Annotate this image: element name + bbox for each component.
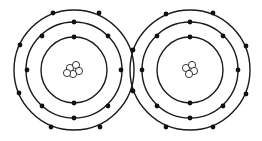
electron-middle (106, 34, 111, 39)
electron-middle (40, 104, 45, 109)
electron-middle (188, 116, 193, 121)
atom-diagram-canvas (0, 0, 262, 141)
electron-middle (236, 68, 241, 73)
electron-outer (244, 44, 249, 49)
nucleus (182, 61, 197, 77)
orbit-shell-3 (130, 10, 250, 130)
electron-outer (51, 11, 56, 16)
electron-outer (97, 11, 102, 16)
electron-middle (221, 104, 226, 109)
electron-outer (164, 12, 169, 17)
electron-middle (155, 104, 160, 109)
electron-shared (131, 48, 136, 53)
orbit-shell-1 (157, 37, 223, 103)
orbit-shell-1 (41, 37, 107, 103)
electron-shared (131, 89, 136, 94)
electron-middle (40, 34, 45, 39)
electron-outer (244, 92, 249, 97)
nucleon (185, 70, 192, 77)
electron-middle (140, 68, 145, 73)
electron-middle (221, 34, 226, 39)
electron-inner (188, 35, 193, 40)
bohr-diagram (0, 0, 262, 141)
electron-outer (18, 43, 23, 48)
electron-outer (164, 125, 169, 130)
electron-outer (211, 125, 216, 130)
right-atom (130, 10, 250, 130)
electron-inner (188, 101, 193, 106)
orbit-shell-3 (14, 10, 134, 130)
electron-outer (17, 91, 22, 96)
electron-middle (119, 68, 124, 73)
electron-middle (106, 104, 111, 109)
electron-middle (72, 20, 77, 25)
electron-inner (72, 101, 77, 106)
electron-middle (72, 116, 77, 121)
electron-outer (211, 11, 216, 16)
electron-middle (155, 34, 160, 39)
electron-middle (188, 20, 193, 25)
electron-inner (72, 35, 77, 40)
nucleon (63, 69, 70, 76)
electron-middle (25, 68, 30, 73)
electron-outer (98, 125, 103, 130)
nucleus (63, 61, 82, 77)
electron-outer (49, 125, 54, 130)
left-atom (14, 10, 134, 130)
